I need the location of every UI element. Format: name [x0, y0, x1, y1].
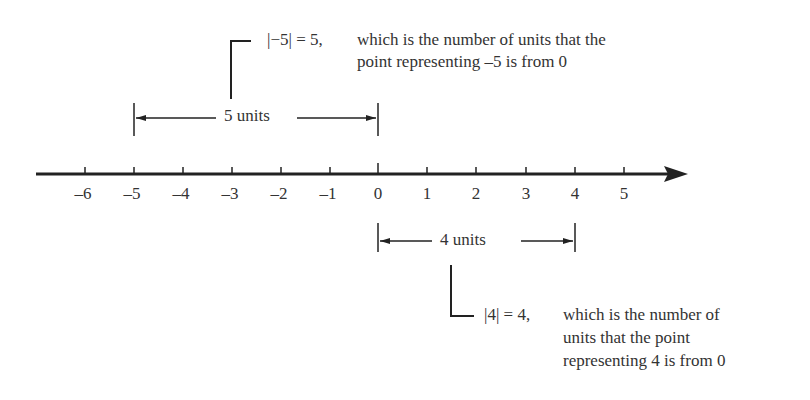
- top-callout-line-1: which is the number of units that the: [357, 30, 606, 50]
- tick-label: –6: [68, 184, 98, 204]
- tick-label: 3: [511, 184, 541, 204]
- bottom-callout-line-3: representing 4 is from 0: [563, 351, 725, 371]
- bottom-callout-line-1: which is the number of: [563, 305, 720, 325]
- bottom-callout-line-2: units that the point: [563, 328, 690, 348]
- bottom-callout-bracket: [451, 265, 474, 316]
- axis-ticks: [85, 163, 624, 174]
- top-callout-bracket: [231, 41, 251, 99]
- tick-label: –1: [313, 184, 343, 204]
- bottom-callout-expression: |4| = 4,: [484, 305, 530, 325]
- tick-label: –5: [117, 184, 147, 204]
- tick-label: 5: [609, 184, 639, 204]
- tick-label: 4: [560, 184, 590, 204]
- top-callout-expression: |−5| = 5,: [267, 30, 323, 50]
- tick-label: –2: [264, 184, 294, 204]
- top-callout-line-2: point representing –5 is from 0: [357, 52, 567, 72]
- five-units-label: 5 units: [218, 106, 276, 126]
- four-units-label: 4 units: [434, 230, 492, 250]
- tick-label: 0: [363, 184, 393, 204]
- tick-label: –3: [215, 184, 245, 204]
- tick-label: 2: [461, 184, 491, 204]
- tick-label: –4: [166, 184, 196, 204]
- tick-label: 1: [412, 184, 442, 204]
